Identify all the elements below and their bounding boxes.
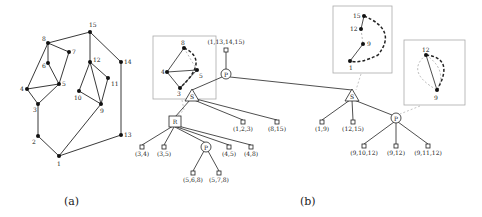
- svg-text:9: 9: [434, 94, 438, 101]
- figure: 1 2 3 4 5 6 7 8 9 10 11 12 13 14 15 (a) …: [0, 0, 482, 217]
- svg-text:(12,15): (12,15): [342, 125, 364, 132]
- svg-text:(4,8): (4,8): [244, 150, 258, 157]
- tree-edges: [142, 52, 428, 171]
- svg-text:(3,4): (3,4): [135, 150, 149, 157]
- svg-text:12: 12: [93, 56, 101, 63]
- svg-text:(9,11,12): (9,11,12): [414, 149, 442, 156]
- svg-text:(1,13,14,15): (1,13,14,15): [207, 38, 244, 45]
- svg-text:8: 8: [42, 35, 46, 42]
- svg-text:3: 3: [177, 90, 181, 97]
- svg-text:(1,2,3): (1,2,3): [233, 125, 253, 132]
- svg-text:R: R: [173, 118, 178, 125]
- svg-text:(8,15): (8,15): [268, 125, 286, 132]
- svg-text:(3,5): (3,5): [157, 150, 171, 157]
- svg-text:11: 11: [111, 80, 119, 87]
- svg-text:S: S: [350, 93, 354, 100]
- svg-text:S: S: [190, 93, 194, 100]
- svg-text:(5,7,8): (5,7,8): [209, 176, 229, 183]
- svg-text:13: 13: [124, 131, 132, 138]
- svg-text:8: 8: [181, 39, 185, 46]
- svg-text:5: 5: [199, 72, 203, 79]
- svg-text:1: 1: [57, 160, 61, 167]
- svg-text:3: 3: [33, 106, 37, 113]
- svg-text:12: 12: [422, 46, 430, 53]
- skeleton-box-s2: 151291: [333, 6, 392, 90]
- svg-text:(4,5): (4,5): [222, 150, 236, 157]
- svg-text:(1,9): (1,9): [315, 125, 329, 132]
- caption-b: (b): [300, 195, 316, 208]
- svg-text:15: 15: [89, 21, 97, 28]
- svg-text:(5,6,8): (5,6,8): [183, 176, 203, 183]
- graph-a-labels: 1 2 3 4 5 6 7 8 9 10 11 12 13 14 15: [20, 21, 132, 167]
- svg-text:1: 1: [349, 64, 353, 71]
- svg-text:6: 6: [42, 62, 46, 69]
- svg-text:15: 15: [353, 12, 361, 19]
- svg-text:(9,10,12): (9,10,12): [350, 149, 378, 156]
- svg-text:14: 14: [124, 58, 132, 65]
- svg-text:2: 2: [32, 138, 36, 145]
- svg-text:10: 10: [74, 94, 82, 101]
- svg-text:7: 7: [72, 48, 76, 55]
- svg-text:4: 4: [20, 85, 24, 92]
- caption-a: (a): [64, 195, 79, 208]
- svg-text:4: 4: [161, 68, 165, 75]
- svg-text:9: 9: [367, 40, 371, 47]
- svg-text:P: P: [394, 115, 398, 122]
- svg-text:P: P: [224, 71, 228, 78]
- svg-text:9: 9: [100, 107, 104, 114]
- skeleton-box-p3: 129: [400, 40, 465, 114]
- svg-text:P: P: [204, 144, 208, 151]
- svg-text:12: 12: [350, 25, 358, 32]
- svg-text:5: 5: [62, 80, 66, 87]
- svg-text:(9,12): (9,12): [387, 149, 405, 156]
